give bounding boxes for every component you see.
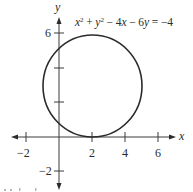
y-axis xyxy=(54,17,64,190)
x-axis-right-arrow-icon xyxy=(169,135,176,140)
y-axis-label: y xyxy=(55,1,60,13)
circle-graph-figure: y x −2 2 4 6 6 −2 x2 + y2 − 4x − 6y = −4 xyxy=(0,0,193,192)
plot-area xyxy=(0,0,193,192)
x-axis-left-arrow-icon xyxy=(11,135,18,140)
cropped-caption-fragments xyxy=(4,188,37,191)
x-tick-label-4: 4 xyxy=(122,147,128,159)
x-tick-label--2: −2 xyxy=(17,147,30,159)
x-tick-label-6: 6 xyxy=(155,147,161,159)
x-tick-label-2: 2 xyxy=(89,147,95,159)
y-axis-down-arrow-icon xyxy=(57,183,62,190)
equation-label: x2 + y2 − 4x − 6y = −4 xyxy=(75,16,173,28)
y-tick-label--2: −2 xyxy=(39,165,52,177)
eq-equals: = −4 xyxy=(149,16,173,28)
eq-minus-6: − 6 xyxy=(126,16,144,28)
y-tick-label-6: 6 xyxy=(45,27,51,39)
eq-plus: + xyxy=(83,16,95,28)
y-axis-up-arrow-icon xyxy=(57,17,62,24)
circle-curve xyxy=(43,35,142,137)
x-axis-label: x xyxy=(179,130,184,142)
eq-minus-4: − 4 xyxy=(104,16,122,28)
